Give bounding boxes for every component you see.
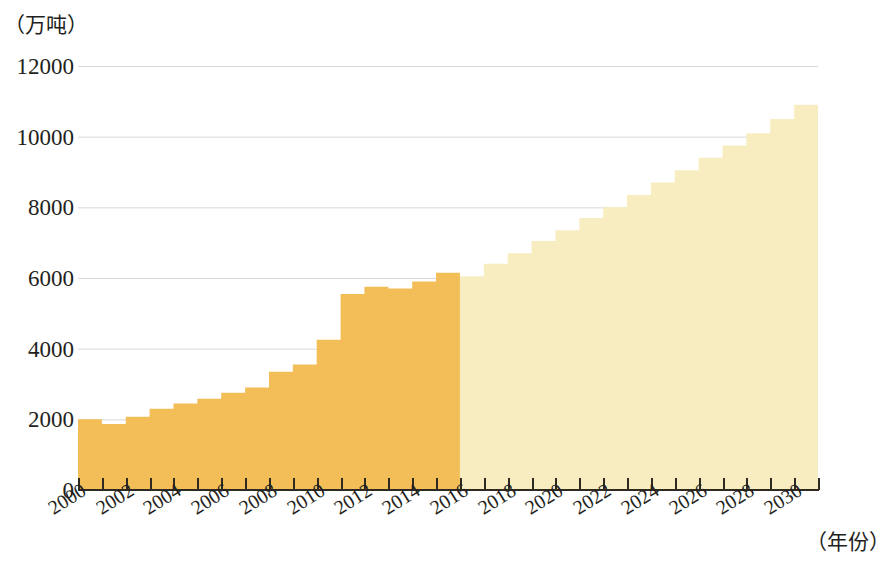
x-axis-tick: [245, 478, 247, 490]
y-axis-tick-label: 4000: [0, 337, 74, 360]
x-axis-unit-label: （年份）: [806, 525, 887, 555]
x-axis-tick: [675, 478, 677, 490]
chart-figure: （万吨） 020004000600080001000012000 2000200…: [0, 0, 887, 565]
x-axis-tick: [818, 478, 820, 490]
x-axis-tick: [579, 478, 581, 490]
x-axis-tick: [341, 478, 343, 490]
x-axis-tick: [197, 478, 199, 490]
x-axis-tick: [150, 478, 152, 490]
x-axis-tick: [723, 478, 725, 490]
historical-area-path: [78, 273, 460, 490]
x-axis-tick: [627, 478, 629, 490]
x-axis-tick: [532, 478, 534, 490]
x-axis-tick: [436, 478, 438, 490]
y-axis-tick-label: 8000: [0, 196, 74, 219]
forecast-area-path: [460, 105, 818, 490]
y-axis-tick-label: 6000: [0, 267, 74, 290]
y-axis-tick-labels: 020004000600080001000012000: [0, 0, 74, 565]
x-axis-tick: [293, 478, 295, 490]
series-step-area: [78, 66, 818, 490]
x-axis-tick: [388, 478, 390, 490]
y-axis-tick-label: 10000: [0, 125, 74, 148]
x-axis-tick: [484, 478, 486, 490]
plot-area: [78, 66, 818, 490]
x-axis-tick: [770, 478, 772, 490]
y-axis-tick-label: 2000: [0, 408, 74, 431]
x-axis-tick: [102, 478, 104, 490]
y-axis-tick-label: 12000: [0, 55, 74, 78]
